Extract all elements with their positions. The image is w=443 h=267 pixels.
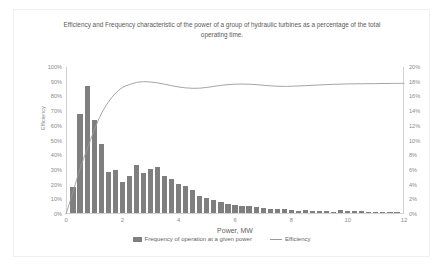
legend-line-swatch-icon	[270, 239, 282, 240]
line-series-efficiency	[66, 67, 404, 214]
y-tick-primary: 100%	[36, 64, 62, 70]
y-tick-secondary: 4%	[409, 182, 435, 188]
y-tick-primary: 30%	[36, 167, 62, 173]
y-tick-primary: 10%	[36, 196, 62, 202]
legend-bar-swatch-icon	[133, 237, 142, 242]
x-tick: 12	[401, 217, 407, 223]
x-tick: 2	[121, 217, 124, 223]
y-axis-primary-title: Efficiency	[40, 73, 46, 163]
legend-item-frequency: Frequency of operation at a given power	[133, 236, 252, 242]
x-axis-ticks: 024681012	[66, 217, 404, 227]
chart-legend: Frequency of operation at a given power …	[0, 236, 443, 242]
x-tick: 8	[290, 217, 293, 223]
chart-title: Efficiency and Frequency characteristic …	[62, 20, 382, 40]
x-tick: 6	[233, 217, 236, 223]
y-tick-secondary: 0%	[409, 211, 435, 217]
y-tick-secondary: 16%	[409, 93, 435, 99]
chart-container: Efficiency and Frequency characteristic …	[13, 9, 430, 257]
y-tick-primary: 20%	[36, 182, 62, 188]
y-tick-secondary: 6%	[409, 167, 435, 173]
y-tick-secondary: 14%	[409, 108, 435, 114]
y-axis-primary-ticks: 0%10%20%30%40%50%60%70%80%90%100%	[34, 67, 62, 214]
y-tick-secondary: 10%	[409, 138, 435, 144]
y-tick-secondary: 20%	[409, 64, 435, 70]
x-tick: 0	[64, 217, 67, 223]
y-tick-secondary: 18%	[409, 79, 435, 85]
legend-label-efficiency: Efficiency	[285, 236, 311, 242]
plot-area	[66, 67, 404, 214]
y-tick-secondary: 12%	[409, 123, 435, 129]
x-axis-title: Power, MW	[66, 227, 404, 234]
y-tick-secondary: 8%	[409, 152, 435, 158]
x-tick: 10	[344, 217, 350, 223]
legend-item-efficiency: Efficiency	[270, 236, 311, 242]
y-axis-secondary-ticks: 0%2%4%6%8%10%12%14%16%18%20%	[406, 67, 434, 214]
y-tick-secondary: 2%	[409, 196, 435, 202]
x-tick: 4	[177, 217, 180, 223]
y-tick-primary: 0%	[36, 211, 62, 217]
legend-label-frequency: Frequency of operation at a given power	[145, 236, 252, 242]
